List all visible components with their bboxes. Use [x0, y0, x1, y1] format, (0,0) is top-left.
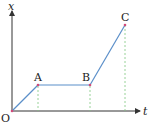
- axes: [12, 11, 140, 111]
- x-axis-label: t: [143, 105, 148, 118]
- point-a: [37, 84, 40, 87]
- graph-line: [12, 25, 125, 111]
- segment-oa: [12, 85, 38, 111]
- origin-label: O: [1, 112, 10, 124]
- label-b: B: [82, 71, 90, 84]
- point-c: [124, 24, 127, 27]
- label-c: C: [121, 11, 129, 24]
- point-b: [89, 84, 92, 87]
- label-a: A: [33, 71, 43, 84]
- labels: x t O A B C: [1, 0, 148, 124]
- points: [11, 24, 127, 113]
- xt-graph: x t O A B C: [0, 0, 151, 124]
- projection-lines: [38, 25, 125, 111]
- point-o: [11, 110, 14, 113]
- y-axis-label: x: [8, 0, 15, 13]
- segment-bc: [90, 25, 125, 85]
